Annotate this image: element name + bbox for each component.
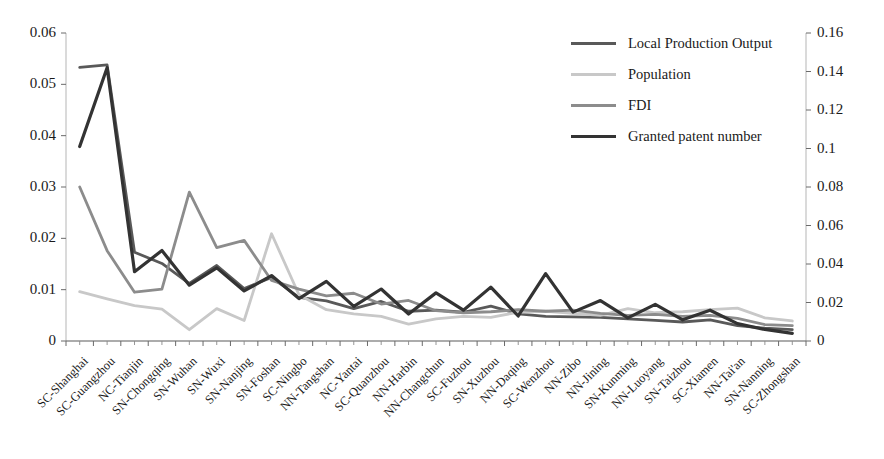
right-axis-tick-label: 0 bbox=[817, 333, 825, 348]
legend-item-label: Granted patent number bbox=[628, 128, 762, 145]
chart-legend: Local Production OutputPopulationFDIGran… bbox=[571, 28, 871, 152]
left-axis-tick-label: 0 bbox=[0, 333, 56, 348]
legend-item-label: FDI bbox=[628, 97, 651, 114]
right-axis-tick-label: 0.02 bbox=[817, 295, 843, 310]
right-axis-tick-label: 0.14 bbox=[817, 64, 843, 79]
right-axis-tick-label: 0.1 bbox=[817, 141, 836, 156]
left-axis-tick-label: 0.05 bbox=[0, 76, 56, 91]
right-axis-tick-label: 0.06 bbox=[817, 218, 843, 233]
left-axis-tick-label: 0.02 bbox=[0, 230, 56, 245]
legend-color-swatch bbox=[571, 135, 616, 138]
right-axis-tick-label: 0.16 bbox=[817, 25, 843, 40]
left-axis-tick-label: 0.03 bbox=[0, 179, 56, 194]
left-axis-tick-label: 0.04 bbox=[0, 128, 56, 143]
series-line-fdi bbox=[80, 187, 793, 326]
left-axis-tick-label: 0.06 bbox=[0, 25, 56, 40]
legend-color-swatch bbox=[571, 104, 616, 107]
right-axis-tick-label: 0.04 bbox=[817, 256, 843, 271]
legend-item-label: Population bbox=[628, 66, 691, 83]
legend-color-swatch bbox=[571, 73, 616, 76]
legend-color-swatch bbox=[571, 42, 616, 45]
legend-item-label: Local Production Output bbox=[628, 35, 772, 52]
right-axis-tick-label: 0.08 bbox=[817, 179, 843, 194]
chart-container: Local Production OutputPopulationFDIGran… bbox=[0, 0, 884, 459]
left-axis-tick-label: 0.01 bbox=[0, 282, 56, 297]
right-axis-tick-label: 0.12 bbox=[817, 102, 843, 117]
